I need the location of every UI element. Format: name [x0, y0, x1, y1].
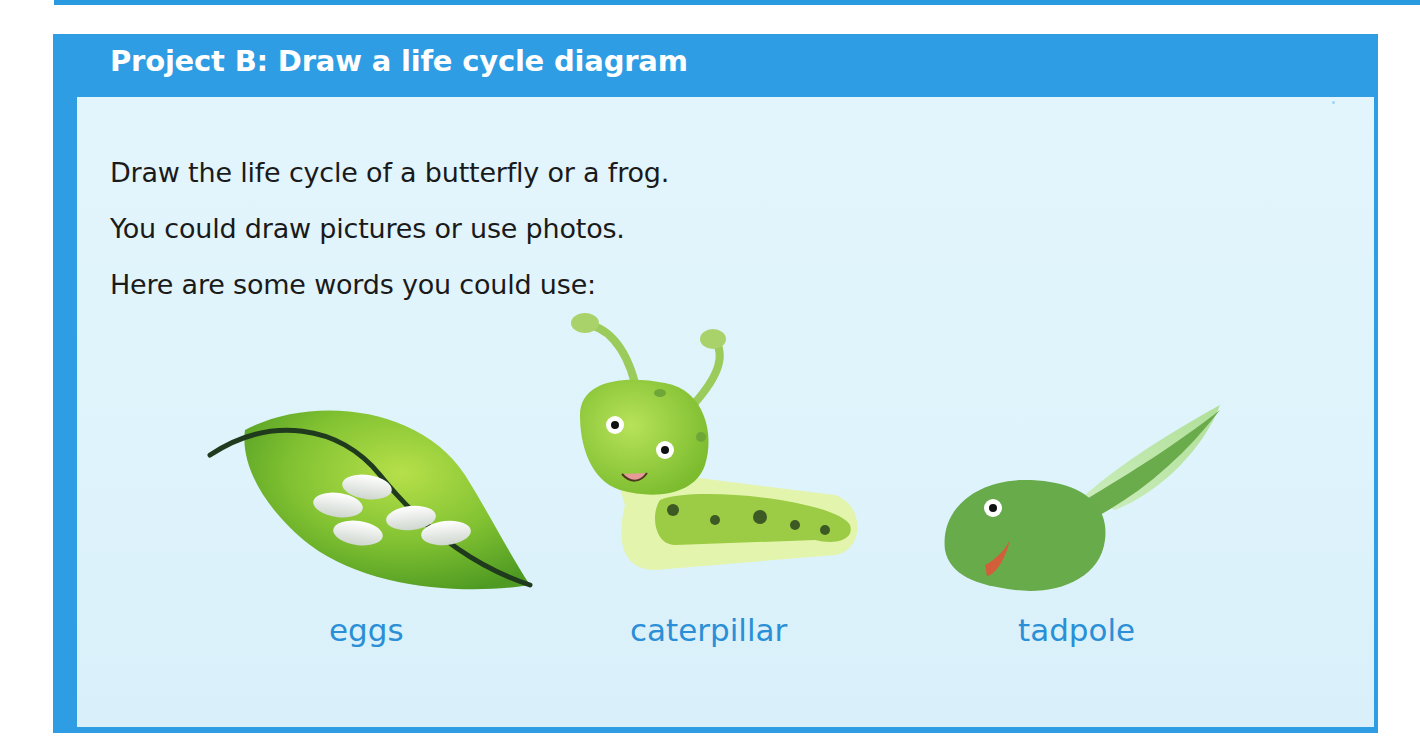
instruction-line-1: Draw the life cycle of a butterfly or a …: [110, 157, 669, 188]
caterpillar-icon: [565, 305, 875, 595]
word-tadpole: tadpole: [1018, 612, 1135, 648]
leaf-with-eggs-icon: [200, 395, 540, 595]
word-eggs: eggs: [329, 612, 404, 648]
instruction-line-3: Here are some words you could use:: [110, 269, 596, 300]
tadpole-icon: [935, 400, 1225, 600]
top-rule: [54, 0, 1420, 5]
speck: [1332, 101, 1335, 104]
word-caterpillar: caterpillar: [630, 612, 787, 648]
instruction-line-2: You could draw pictures or use photos.: [110, 213, 625, 244]
project-title: Project B: Draw a life cycle diagram: [110, 44, 688, 78]
